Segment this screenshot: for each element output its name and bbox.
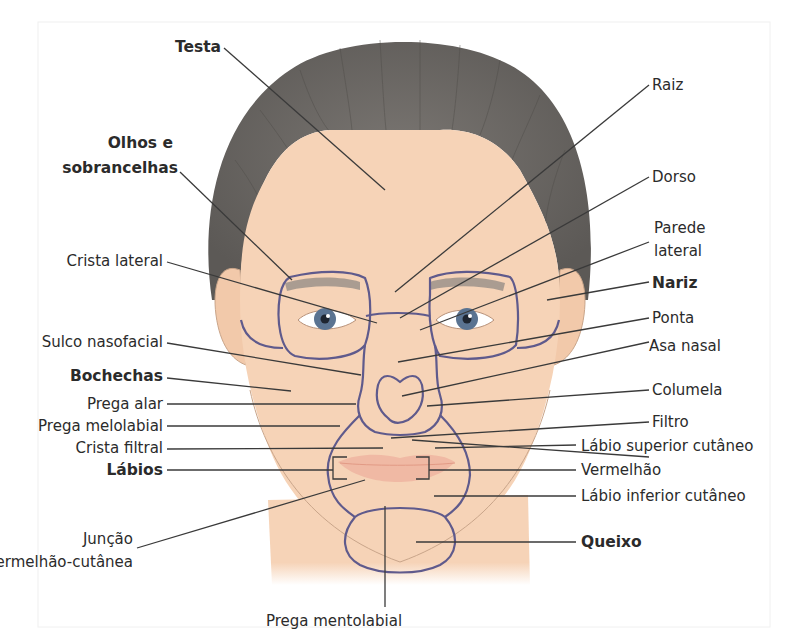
label-prega-alar: Prega alar xyxy=(87,395,164,413)
label-parede-line2: lateral xyxy=(654,242,702,260)
label-parede-line1: Parede xyxy=(654,219,705,237)
label-asa-nasal: Asa nasal xyxy=(649,337,721,355)
label-vermelhao: Vermelhão xyxy=(581,461,661,479)
label-crista-lateral: Crista lateral xyxy=(67,252,163,270)
label-juncao-line1: Junção xyxy=(82,530,133,548)
label-crista-filtral: Crista filtral xyxy=(76,439,164,457)
label-queixo: Queixo xyxy=(581,533,642,551)
face-aesthetic-units-diagram: Testa Olhos e sobrancelhas Crista latera… xyxy=(0,0,791,640)
label-sulco-nasofacial: Sulco nasofacial xyxy=(42,333,163,351)
label-filtro: Filtro xyxy=(652,413,689,431)
label-testa: Testa xyxy=(175,38,221,56)
label-ponta: Ponta xyxy=(652,309,694,327)
label-prega-melolabial: Prega melolabial xyxy=(38,417,163,435)
label-labio-superior: Lábio superior cutâneo xyxy=(581,437,753,455)
label-columela: Columela xyxy=(652,381,723,399)
label-olhos-line2: sobrancelhas xyxy=(62,159,178,177)
label-dorso: Dorso xyxy=(652,168,696,186)
label-prega-mentolabial: Prega mentolabial xyxy=(266,612,402,630)
label-raiz: Raiz xyxy=(652,76,683,94)
label-bochechas: Bochechas xyxy=(70,367,163,385)
label-olhos-line1: Olhos e xyxy=(108,134,173,152)
label-nariz: Nariz xyxy=(652,274,697,292)
label-labio-inferior: Lábio inferior cutâneo xyxy=(581,487,746,505)
label-juncao-line2: vermelhão-cutânea xyxy=(0,553,133,571)
label-labios: Lábios xyxy=(106,461,163,479)
